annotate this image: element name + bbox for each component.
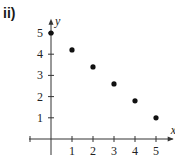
data-point [69,47,74,52]
data-points [48,30,158,120]
y-axis-arrow-icon [49,19,54,25]
y-tick-label: 3 [37,68,43,82]
data-point [153,115,158,120]
x-tick-label: 2 [90,144,96,158]
x-axis-label: x [170,123,175,137]
data-point [90,64,95,69]
x-tick-label: 5 [153,144,159,158]
x-tick-label: 3 [111,144,117,158]
y-tick-label: 2 [37,90,43,104]
y-tick-label: 4 [37,47,43,61]
data-point [132,98,137,103]
x-axis-arrow-icon [168,137,174,142]
x-tick-label: 1 [69,144,75,158]
scatter-chart: xy1234512345 [0,0,175,158]
y-tick-label: 1 [37,111,43,125]
x-tick-label: 4 [132,144,138,158]
data-point [48,30,53,35]
y-tick-label: 5 [37,26,43,40]
data-point [111,81,116,86]
y-axis-label: y [54,14,61,28]
